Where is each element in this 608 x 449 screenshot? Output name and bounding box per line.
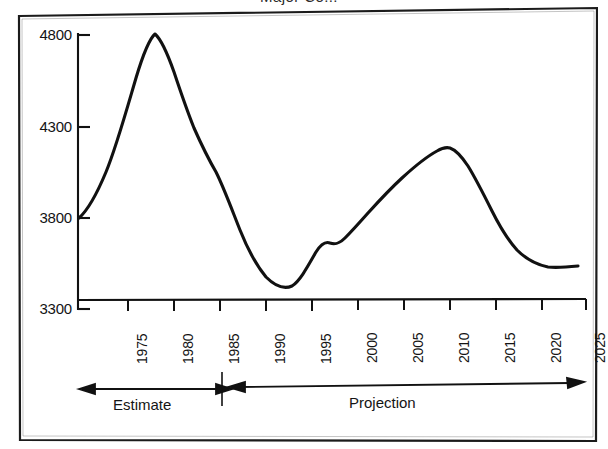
x-axis-line bbox=[78, 299, 586, 300]
x-tick-label-2020: 2020 bbox=[548, 333, 564, 363]
estimate-label: Estimate bbox=[113, 396, 171, 413]
x-tick-label-1975: 1975 bbox=[134, 334, 150, 364]
y-tick-label-4300: 4300 bbox=[18, 118, 72, 135]
x-tick-label-2025: 2025 bbox=[592, 333, 608, 363]
x-tick-label-2000: 2000 bbox=[364, 333, 380, 363]
x-tick-label-2015: 2015 bbox=[502, 333, 518, 363]
x-tick-label-1980: 1980 bbox=[180, 334, 196, 364]
y-tick-label-3800: 3800 bbox=[18, 209, 72, 226]
y-tick-label-3300: 3300 bbox=[18, 300, 72, 317]
y-tick-label-4800: 4800 bbox=[18, 26, 72, 43]
y-axis-ticks bbox=[78, 35, 90, 309]
data-line bbox=[79, 34, 578, 288]
x-tick-label-1985: 1985 bbox=[226, 334, 242, 364]
x-tick-label-1990: 1990 bbox=[272, 334, 288, 364]
x-tick-label-2005: 2005 bbox=[410, 333, 426, 363]
projection-label: Projection bbox=[349, 394, 416, 411]
x-tick-label-2010: 2010 bbox=[456, 333, 472, 363]
x-tick-label-1995: 1995 bbox=[318, 334, 334, 364]
